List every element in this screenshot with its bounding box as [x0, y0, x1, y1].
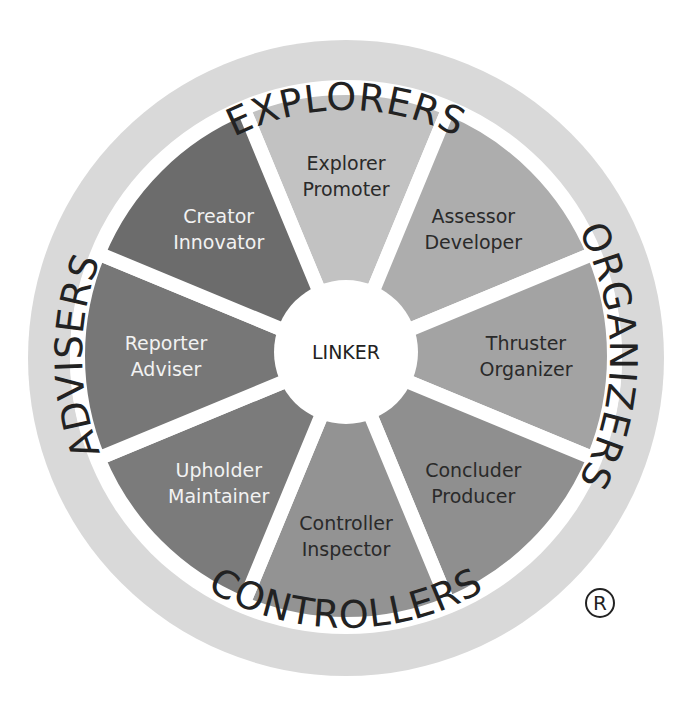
- team-wheel-diagram: ExplorerPromoterAssessorDeveloperThruste…: [0, 0, 686, 716]
- wheel-svg: ExplorerPromoterAssessorDeveloperThruste…: [0, 0, 686, 716]
- center-label: LINKER: [312, 341, 380, 363]
- registered-mark: R: [593, 591, 607, 615]
